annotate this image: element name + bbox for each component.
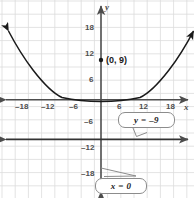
y-axis-name: y bbox=[105, 3, 109, 12]
x-tick-label-6: 6 bbox=[117, 103, 121, 111]
plot-canvas bbox=[0, 0, 194, 198]
y-tick-label-neg12: –12 bbox=[81, 144, 94, 152]
x-tick-label-18: 18 bbox=[166, 103, 175, 111]
x-tick-label-neg12: –12 bbox=[41, 103, 54, 111]
point-label-0-9: (0, 9) bbox=[106, 56, 127, 65]
callout-y-equals-neg9: y = –9 bbox=[118, 112, 175, 128]
callout-leader-y bbox=[133, 128, 147, 137]
x-tick-label-12: 12 bbox=[139, 103, 148, 111]
plotted-point bbox=[99, 58, 103, 62]
x-tick-label-neg6: –6 bbox=[69, 103, 78, 111]
x-axis-name: x bbox=[184, 103, 189, 112]
x-tick-label-neg18: –18 bbox=[15, 103, 28, 111]
y-tick-label-neg18: –18 bbox=[81, 170, 94, 178]
coordinate-plane-figure: –18 –12 –6 6 12 18 18 12 6 –6 –12 –18 x … bbox=[0, 0, 194, 198]
y-tick-label-12: 12 bbox=[85, 50, 94, 58]
y-tick-label-6: 6 bbox=[89, 76, 93, 84]
y-tick-label-18: 18 bbox=[85, 24, 94, 32]
callout-x-equals-0: x = 0 bbox=[95, 178, 147, 194]
y-tick-label-neg6: –6 bbox=[84, 118, 93, 126]
